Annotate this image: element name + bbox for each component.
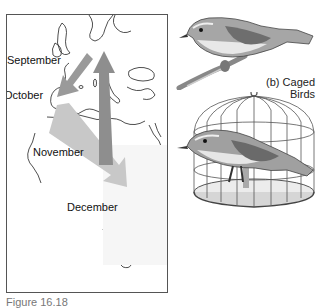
caged-birds-panel: (b) Caged Birds — [175, 0, 317, 302]
cage-hook — [251, 92, 257, 96]
migration-map-panel: September October November December — [6, 14, 168, 293]
month-label-november: November — [33, 146, 84, 158]
september-arrow — [57, 53, 93, 97]
figure-caption: Figure 16.18 — [6, 296, 68, 308]
month-label-october: October — [6, 89, 43, 101]
birdcage-illustration — [175, 92, 317, 262]
caged-birds-label-line1: (b) Caged — [257, 76, 315, 88]
month-label-september: September — [7, 54, 61, 66]
branch — [179, 56, 245, 88]
month-label-december: December — [67, 201, 118, 213]
